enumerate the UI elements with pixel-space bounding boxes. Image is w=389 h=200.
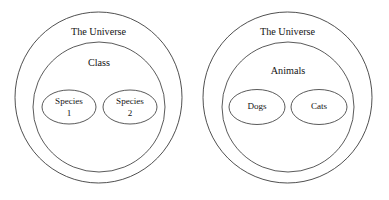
label-species-1-number: 1: [67, 108, 72, 118]
diagram-animals-taxonomy: The Universe Animals Dogs Cats: [203, 12, 372, 183]
nested-set-diagram-canvas: The Universe Class Species 1 Species 2 T…: [0, 0, 389, 200]
label-animals: Animals: [271, 65, 306, 76]
label-class: Class: [88, 57, 110, 68]
label-universe-right: The Universe: [260, 26, 316, 37]
label-species-1: Species: [55, 96, 83, 106]
label-dogs: Dogs: [247, 101, 267, 111]
leaf-set-species-2: [103, 90, 157, 124]
venn-diagram-figure: The Universe Class Species 1 Species 2 T…: [0, 0, 389, 200]
label-species-2-number: 2: [128, 108, 133, 118]
diagram-generic-taxonomy: The Universe Class Species 1 Species 2: [15, 12, 182, 183]
leaf-set-species-1: [42, 90, 96, 124]
label-species-2: Species: [116, 96, 144, 106]
label-universe-left: The Universe: [71, 26, 127, 37]
label-cats: Cats: [311, 101, 328, 111]
